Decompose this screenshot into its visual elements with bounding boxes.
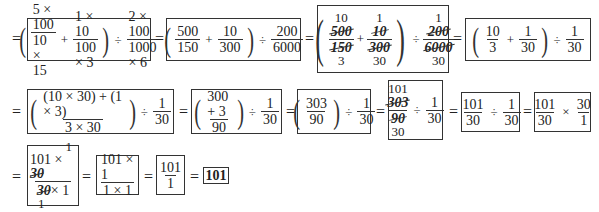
right-paren: ) (129, 95, 136, 129)
divide-sign: ÷ (490, 104, 497, 120)
step-10-box: 10130 × 301 (534, 92, 591, 132)
step-13-box: 1011 (156, 155, 185, 195)
fraction: 10130 (532, 97, 557, 128)
fraction: 130 (566, 24, 584, 55)
right-paren: ) (237, 95, 244, 129)
step-9-box: 10130 ÷ 130 (461, 92, 520, 132)
fraction: 101 × 11 × 1 (99, 152, 136, 198)
equals-sign: = (179, 104, 188, 120)
fraction: 130 (503, 97, 521, 128)
fraction: 500150 (175, 24, 200, 55)
divide-sign: ÷ (249, 104, 256, 120)
divide-sign: ÷ (141, 104, 148, 120)
fraction: 130 (261, 96, 279, 127)
plus-sign: + (61, 32, 68, 48)
step-5-box: ( (10 × 30) + (1 × 3)3 × 30 ) ÷ 130 (27, 89, 174, 134)
equals-sign: = (376, 104, 385, 120)
equals-sign: = (449, 104, 458, 120)
final-result-box: 101 (203, 167, 229, 184)
fraction: 5 × 10010 × 15 (31, 2, 56, 78)
equals-sign: = (190, 169, 199, 185)
fraction: 130 (519, 24, 537, 55)
left-paren: ( (30, 95, 37, 129)
fraction: 10300 (218, 24, 243, 55)
right-paren: ) (247, 23, 254, 57)
plus-sign: + (357, 31, 364, 47)
right-paren: ) (333, 95, 340, 129)
fraction: 30390 (304, 96, 329, 127)
left-paren: ( (20, 23, 27, 57)
plus-sign: + (507, 32, 514, 48)
fraction: 10130 (460, 97, 485, 128)
fraction: 1011 (158, 160, 183, 191)
step-4-box: ( 103 + 130 ) ÷ 130 (465, 18, 591, 61)
cancelled-fraction: 10 500150 3 (329, 12, 354, 67)
right-paren: ) (541, 23, 548, 57)
plus-sign: + (205, 32, 212, 48)
fraction: 130 (357, 96, 375, 127)
cancelled-fraction: 1 10300 30 (367, 12, 392, 67)
step-3-cancellation-box: ( 10 500150 3 + 1 10300 30 ) ÷ 1 2006000… (317, 5, 449, 73)
fraction: 2006000 (271, 24, 303, 55)
equals-sign: = (453, 31, 462, 47)
divide-sign: ÷ (413, 102, 420, 118)
fraction: 2 × 1001000 × 6 (127, 9, 159, 70)
fraction: (10 × 30) + (1 × 3)3 × 30 (41, 89, 124, 135)
divide-sign: ÷ (553, 32, 560, 48)
cancelled-fraction: 1 2006000 30 (423, 12, 455, 67)
fraction: 130 (153, 96, 171, 127)
step-2-box: ( 500150 + 10300 ) ÷ 2006000 (166, 18, 301, 61)
step-12-box: 101 × 11 × 1 (96, 155, 139, 195)
divide-sign: ÷ (412, 31, 419, 47)
step-6-box: ( 300 + 390 ) ÷ 130 (191, 89, 282, 134)
left-paren: ( (473, 23, 480, 57)
divide-sign: ÷ (345, 104, 352, 120)
left-paren: ( (194, 95, 201, 129)
final-result: 101 (206, 168, 227, 184)
equals-sign: = (12, 104, 21, 120)
equals-sign: = (12, 169, 21, 185)
fraction: 300 + 390 (205, 89, 232, 135)
left-paren: ( (164, 23, 171, 57)
left-paren: ( (316, 13, 325, 65)
left-paren: ( (293, 95, 300, 129)
fraction: 130 (426, 95, 444, 126)
cancelled-fraction: 101 30390 30 (385, 83, 410, 138)
step-8-cancellation-box: 101 30390 30 ÷ 130 (388, 80, 443, 140)
step-1-box: ( 5 × 10010 × 15 + 1 × 10100 × 3 ) ÷ 2 ×… (27, 18, 151, 61)
right-paren: ) (396, 13, 405, 65)
divide-sign: ÷ (259, 32, 266, 48)
cancelled-fraction: 1 101 × 30 30× 1 1 (28, 141, 78, 210)
divide-sign: ÷ (114, 32, 121, 48)
step-7-box: ( 30390 ) ÷ 130 (297, 89, 371, 134)
equals-sign: = (155, 31, 164, 47)
step-11-cancellation-box: 1 101 × 30 30× 1 1 (27, 145, 79, 206)
equals-sign: = (523, 104, 532, 120)
fraction: 301 (575, 97, 593, 128)
equals-sign: = (82, 169, 91, 185)
fraction: 103 (484, 24, 502, 55)
equals-sign: = (144, 169, 153, 185)
equals-sign: = (305, 31, 314, 47)
fraction: 1 × 10100 × 3 (73, 9, 98, 70)
right-paren: ) (102, 23, 109, 57)
times-sign: × (562, 104, 569, 120)
